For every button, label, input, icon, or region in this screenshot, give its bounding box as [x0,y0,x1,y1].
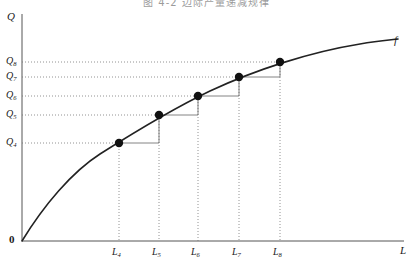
x-tick-l5: L5 [152,247,161,258]
y-tick-q4: Q4 [6,137,17,148]
step-l7-l8 [239,62,280,77]
chart-root: 图 4-2 边际产量递减规律 [0,0,413,267]
x-axis-label: L [400,245,406,256]
marginal-step-lines [119,62,280,143]
x-tick-l6-sub: 6 [197,251,200,258]
x-tick-l4: L4 [112,247,121,258]
x-tick-l6: L6 [191,247,200,258]
plot-svg [0,0,413,267]
vertical-gridlines [119,62,280,241]
production-function-curve [22,39,398,241]
x-tick-l4-sub: 4 [118,251,121,258]
y-tick-q8: Q8 [6,56,17,67]
y-axis-label: Q [7,11,15,22]
curve-label-f: f [394,35,397,46]
y-tick-q6-sub: 6 [13,94,16,101]
data-point-l4 [115,139,123,147]
x-tick-l8: L8 [273,247,282,258]
x-tick-l7: L7 [232,247,241,258]
x-tick-l5-sub: 5 [158,251,161,258]
y-tick-q5: Q5 [6,109,17,120]
y-tick-q6: Q6 [6,90,17,101]
y-tick-q7: Q7 [6,71,17,82]
x-tick-l8-sub: 8 [279,251,282,258]
y-tick-q4-sub: 4 [13,141,16,148]
data-point-l7 [235,73,243,81]
origin-label: 0 [9,234,15,245]
data-point-l8 [276,58,284,66]
x-tick-l7-sub: 7 [238,251,241,258]
y-tick-q8-sub: 8 [13,60,16,67]
y-tick-q7-sub: 7 [13,75,16,82]
y-tick-q5-sub: 5 [13,113,16,120]
data-point-l6 [194,92,202,100]
data-point-l5 [155,111,163,119]
step-l5-l6 [159,96,198,115]
